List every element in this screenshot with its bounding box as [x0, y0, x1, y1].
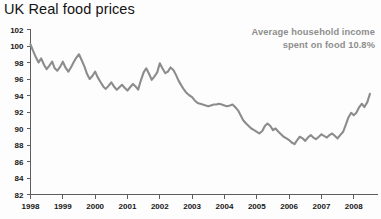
x-tick-label: 2002 — [151, 202, 169, 211]
x-tick-label: 2005 — [248, 202, 266, 211]
line-chart-plot: 102100989694929088868482 199819992000200… — [0, 0, 381, 219]
x-tick-label: 2000 — [86, 202, 104, 211]
data-series-line — [31, 44, 370, 144]
x-tick-label: 2004 — [216, 202, 234, 211]
y-tick-label: 86 — [15, 158, 24, 167]
x-tick-label: 1998 — [22, 202, 40, 211]
y-tick-label: 98 — [15, 59, 24, 68]
chart-container: UK Real food prices Average household in… — [0, 0, 381, 219]
y-tick-label: 96 — [15, 75, 24, 84]
y-axis-ticks: 102100989694929088868482 — [10, 26, 30, 200]
x-tick-label: 1999 — [54, 202, 72, 211]
y-tick-label: 84 — [15, 174, 24, 183]
y-tick-label: 102 — [10, 26, 24, 35]
x-tick-label: 2001 — [119, 202, 137, 211]
x-axis-ticks: 1998199920002001200220032004200520062007… — [22, 195, 364, 211]
y-tick-label: 92 — [15, 108, 24, 117]
y-tick-label: 94 — [15, 92, 24, 101]
y-tick-label: 90 — [15, 125, 24, 134]
y-tick-label: 88 — [15, 141, 24, 150]
x-tick-label: 2006 — [280, 202, 298, 211]
x-tick-label: 2008 — [345, 202, 363, 211]
y-tick-label: 82 — [15, 191, 24, 200]
x-tick-label: 2007 — [313, 202, 331, 211]
x-tick-label: 2003 — [183, 202, 201, 211]
y-tick-label: 100 — [10, 42, 24, 51]
